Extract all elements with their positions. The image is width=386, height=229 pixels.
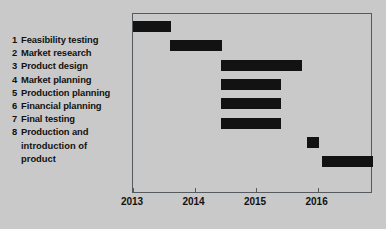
x-axis-tick	[195, 188, 196, 193]
task-number: 7	[12, 112, 21, 125]
plot-frame	[132, 13, 372, 193]
task-number: 3	[12, 59, 21, 72]
x-axis-tick	[256, 188, 257, 193]
plot-area	[133, 14, 371, 192]
x-axis-tick	[133, 188, 134, 193]
task-label: Market planning	[21, 73, 91, 86]
task-label: Product design	[21, 59, 88, 72]
task-number: 6	[12, 99, 21, 112]
task-number: 8	[12, 125, 21, 138]
list-item: 1 Feasibility testing	[12, 33, 134, 46]
task-label-continuation: product	[12, 152, 134, 165]
task-number: 2	[12, 46, 21, 59]
task-label: Feasibility testing	[21, 33, 98, 46]
task-label: Production and	[21, 125, 88, 138]
gantt-chart-figure: 1 Feasibility testing 2 Market research …	[0, 0, 386, 229]
task-label: Market research	[21, 46, 91, 59]
gantt-bar	[221, 98, 281, 109]
list-item: 2 Market research	[12, 46, 134, 59]
list-item: 7 Final testing	[12, 112, 134, 125]
gantt-bar	[133, 21, 171, 32]
task-label-continuation: introduction of	[12, 139, 134, 152]
list-item: 4 Market planning	[12, 73, 134, 86]
list-item: 5 Production planning	[12, 86, 134, 99]
gantt-bar	[170, 40, 222, 51]
gantt-bar	[221, 60, 302, 71]
x-axis-tick	[318, 188, 319, 193]
task-label: Production planning	[21, 86, 110, 99]
task-number: 5	[12, 86, 21, 99]
task-label: Financial planning	[21, 99, 102, 112]
list-item: 8 Production and	[12, 125, 134, 138]
task-number: 4	[12, 73, 21, 86]
x-axis-tick-label: 2016	[305, 196, 327, 207]
gantt-bar	[322, 156, 373, 167]
task-number: 1	[12, 33, 21, 46]
list-item: 3 Product design	[12, 59, 134, 72]
gantt-bar	[307, 137, 320, 148]
x-axis-tick-label: 2013	[121, 196, 143, 207]
list-item: 6 Financial planning	[12, 99, 134, 112]
gantt-bar	[221, 79, 281, 90]
task-list: 1 Feasibility testing 2 Market research …	[12, 33, 134, 165]
gantt-bar	[221, 118, 281, 129]
task-label: Final testing	[21, 112, 75, 125]
x-axis-tick-label: 2015	[244, 196, 266, 207]
x-axis-tick-label: 2014	[182, 196, 204, 207]
